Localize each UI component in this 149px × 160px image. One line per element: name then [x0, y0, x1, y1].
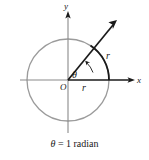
arc-radius-label: r	[106, 51, 110, 61]
diagram-canvas	[0, 0, 149, 160]
caption-relation: = 1 radian	[55, 138, 98, 149]
radian-diagram: y x O θ r r θ = 1 radian	[0, 0, 149, 160]
figure-caption: θ = 1 radian	[0, 138, 149, 149]
angle-theta-label: θ	[72, 70, 77, 80]
angle-indicator-arc	[87, 63, 94, 73]
terminal-ray-arrowhead	[108, 20, 117, 29]
base-radius-label: r	[82, 83, 86, 93]
x-axis-label: x	[137, 76, 141, 85]
origin-label: O	[60, 83, 67, 92]
y-axis-label: y	[64, 2, 68, 11]
